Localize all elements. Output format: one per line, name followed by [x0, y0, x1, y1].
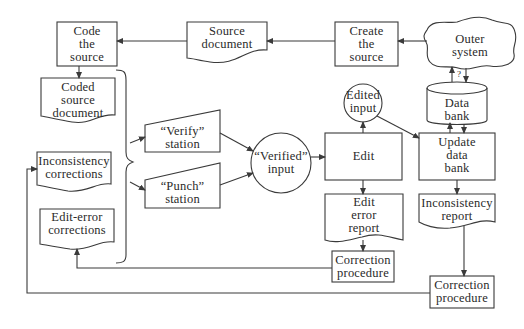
- flowchart-canvas: Code the source Source document Create t…: [0, 0, 524, 329]
- code-source-label: Code the source: [57, 25, 117, 64]
- inconsistency-report-label: Inconsistency report: [417, 197, 497, 223]
- correction-procedure-1-label: Correction procedure: [332, 254, 394, 280]
- verified-input-label: “Verified” input: [251, 150, 311, 176]
- edit-label: Edit: [325, 150, 402, 163]
- punch-station-label: “Punch” station: [145, 180, 220, 206]
- edit-error-corrections-label: Edit-error corrections: [40, 211, 114, 237]
- outer-system-label: Outer system: [430, 33, 510, 59]
- create-source-label: Create the source: [335, 25, 398, 64]
- correction-procedure-2-label: Correction procedure: [430, 279, 494, 305]
- query-mark: ?: [452, 70, 466, 79]
- edited-input-label: Edited input: [344, 89, 382, 115]
- coded-source-document-label: Coded source document: [41, 81, 115, 120]
- verify-station-label: “Verify” station: [145, 125, 220, 151]
- update-data-bank-label: Update data bank: [419, 136, 495, 175]
- edit-error-report-label: Edit error report: [325, 196, 403, 235]
- source-document-label: Source document: [187, 25, 267, 51]
- data-bank-label: Data bank: [427, 97, 487, 123]
- group-bracket: [116, 70, 133, 263]
- inconsistency-corrections-label: Inconsistency corrections: [35, 155, 113, 181]
